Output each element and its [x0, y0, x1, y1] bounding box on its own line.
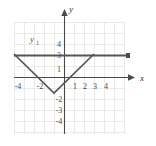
x-tick-label--4: -4 [15, 82, 22, 91]
x-tick-label-1: 1 [73, 82, 77, 91]
y-axis [61, 9, 67, 134]
x-axis-label: x [139, 73, 144, 83]
x-tick-label-2: 2 [83, 82, 87, 91]
y-tick-label-1: 1 [57, 65, 61, 74]
curve-label-y1: y [29, 34, 34, 44]
y-tick-label--2: -2 [56, 95, 63, 104]
y-tick-label--4: -4 [56, 117, 63, 126]
y-axis-label: y [68, 4, 73, 14]
series-absolute-value-curve [14, 54, 94, 93]
series-horizontal-line [14, 53, 130, 58]
graph-figure: x y y 1 -4 -2 1 2 3 4 4 3 1 -2 -3 -4 [0, 0, 156, 146]
curve-label-y1-subscript: 1 [36, 40, 39, 46]
x-tick-label--2: -2 [37, 82, 44, 91]
y-tick-label--3: -3 [56, 106, 63, 115]
coordinate-plane: x y y 1 -4 -2 1 2 3 4 4 3 1 -2 -3 -4 [0, 0, 156, 146]
x-tick-label-4: 4 [104, 82, 108, 91]
y-tick-label-3: 3 [57, 51, 61, 60]
x-tick-label-3: 3 [93, 82, 97, 91]
y-tick-label-4: 4 [57, 40, 61, 49]
